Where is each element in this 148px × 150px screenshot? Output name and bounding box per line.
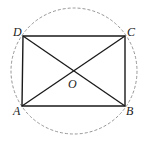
geometry-figure: D C A B O [0, 0, 148, 150]
label-o: O [68, 77, 77, 91]
figure-svg: D C A B O [0, 0, 148, 150]
label-b: B [126, 104, 134, 118]
label-c: C [127, 25, 136, 39]
label-d: D [12, 25, 22, 39]
label-a: A [12, 104, 21, 118]
